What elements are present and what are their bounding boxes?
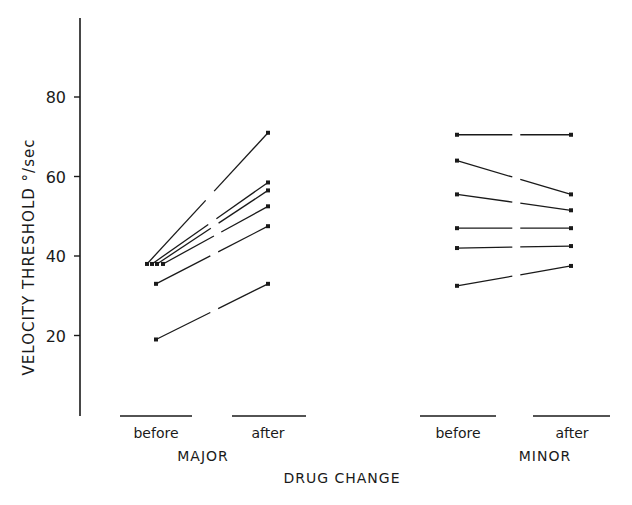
- data-point: [569, 264, 573, 268]
- data-point: [266, 224, 270, 228]
- major-after-label: after: [251, 425, 284, 441]
- data-line: [145, 131, 270, 266]
- data-point: [455, 133, 459, 137]
- data-point: [569, 244, 573, 248]
- data-line: [455, 264, 573, 288]
- data-point: [455, 284, 459, 288]
- data-point: [145, 262, 149, 266]
- data-line: [155, 188, 270, 266]
- data-point: [455, 192, 459, 196]
- data-point: [455, 246, 459, 250]
- data-point: [154, 282, 158, 286]
- data-point: [161, 262, 165, 266]
- y-tick-label: 80: [46, 88, 66, 107]
- minor-before-label: before: [435, 425, 480, 441]
- data-line: [455, 192, 573, 212]
- data-point: [150, 262, 154, 266]
- data-line: [161, 204, 270, 266]
- data-point: [455, 226, 459, 230]
- y-axis-label: VELOCITY THRESHOLD °/sec: [20, 139, 38, 376]
- minor-after-label: after: [555, 425, 588, 441]
- major-group-label: MAJOR: [177, 448, 229, 464]
- data-point: [569, 226, 573, 230]
- data-line: [455, 244, 573, 250]
- data-point: [569, 208, 573, 212]
- data-point: [155, 262, 159, 266]
- data-point: [266, 282, 270, 286]
- data-point: [569, 192, 573, 196]
- y-tick-label: 60: [46, 168, 66, 187]
- x-axis-label: DRUG CHANGE: [283, 470, 400, 486]
- data-line: [154, 282, 270, 342]
- data-line: [455, 159, 573, 197]
- data-point: [569, 133, 573, 137]
- data-line: [150, 180, 270, 265]
- data-point: [266, 180, 270, 184]
- velocity-threshold-chart: 20406080 VELOCITY THRESHOLD °/sec before…: [0, 0, 632, 505]
- data-point: [455, 159, 459, 163]
- minor-group-label: MINOR: [519, 448, 571, 464]
- y-tick-label: 20: [46, 327, 66, 346]
- data-point: [154, 337, 158, 341]
- data-line: [455, 226, 573, 230]
- data-point: [266, 131, 270, 135]
- y-axis: 20406080: [46, 18, 80, 416]
- major-before-label: before: [133, 425, 178, 441]
- plot-area: [145, 131, 573, 342]
- data-line: [455, 133, 573, 137]
- data-point: [266, 204, 270, 208]
- data-point: [266, 188, 270, 192]
- y-tick-label: 40: [46, 247, 66, 266]
